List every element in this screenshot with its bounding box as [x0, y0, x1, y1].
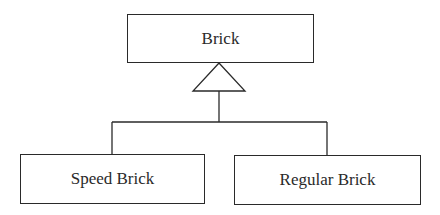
class-label-regular-brick: Regular Brick	[280, 170, 376, 190]
generalization-arrow-icon	[193, 63, 245, 91]
inheritance-diagram: Brick Speed Brick Regular Brick	[0, 0, 440, 215]
class-box-brick: Brick	[127, 14, 314, 63]
class-label-speed-brick: Speed Brick	[71, 169, 155, 189]
class-label-brick: Brick	[202, 29, 240, 49]
class-box-speed-brick: Speed Brick	[20, 154, 205, 204]
class-box-regular-brick: Regular Brick	[234, 155, 421, 205]
